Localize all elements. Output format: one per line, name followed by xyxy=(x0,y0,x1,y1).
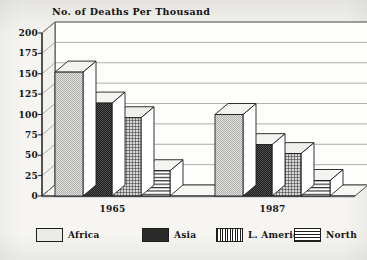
bar-chart: No. of Deaths Per Thousand 0255075100125… xyxy=(0,0,367,260)
legend-item-asia: Asia xyxy=(142,228,196,242)
legend-swatch-icon xyxy=(36,228,63,242)
legend-item-africa: Africa xyxy=(36,228,100,242)
legend-swatch-icon xyxy=(142,228,169,242)
legend-label: Africa xyxy=(68,230,100,240)
bar-africa-1965 xyxy=(55,61,96,196)
x-tick-label-1987: 1987 xyxy=(259,204,285,214)
chart-plot-area xyxy=(0,0,367,260)
legend-label: North xyxy=(326,230,357,240)
bar-africa-1987 xyxy=(215,104,256,197)
legend-swatch-icon xyxy=(294,228,321,242)
legend-label: Asia xyxy=(174,230,196,240)
legend-swatch-icon xyxy=(216,228,243,242)
chart-legend: AfricaAsiaL. AmericaNorth xyxy=(36,228,336,252)
x-tick-label-1965: 1965 xyxy=(99,204,125,214)
legend-item-north: North xyxy=(294,228,357,242)
legend-item-lamerica: L. America xyxy=(216,228,305,242)
